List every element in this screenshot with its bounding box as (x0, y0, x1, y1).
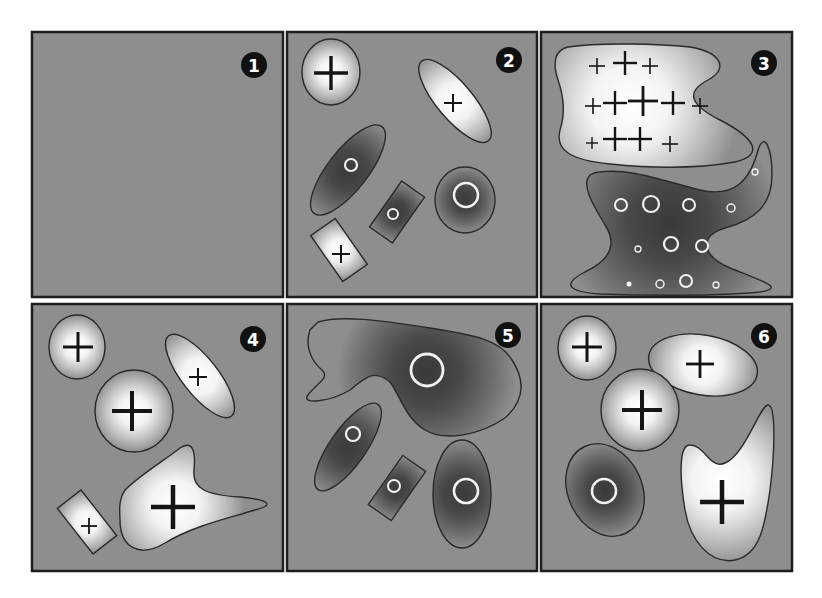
badge-number: 3 (758, 54, 770, 74)
panels-layer (32, 32, 792, 571)
panel-6-number-badge: 6 (751, 323, 777, 349)
badge-number: 4 (247, 330, 259, 350)
badge-number: 1 (248, 56, 260, 76)
panel-4-number-badge: 4 (240, 326, 266, 352)
badge-number: 5 (502, 326, 514, 346)
badge-number: 2 (503, 51, 515, 71)
positive-region-ellipse (49, 315, 105, 379)
badge-number: 6 (758, 327, 770, 347)
panel-2-number-badge: 2 (496, 47, 522, 73)
positive-region-ellipse (302, 39, 360, 105)
panel-2 (287, 32, 537, 297)
negative-region-ellipse (433, 440, 491, 548)
dot-sign-icon (627, 282, 632, 287)
panel-3 (541, 32, 792, 297)
six-panel-figure: 123456 (0, 0, 822, 598)
ellipse-shape (433, 440, 491, 548)
panel-1-number-badge: 1 (241, 52, 267, 78)
panel-3-number-badge: 3 (751, 50, 777, 76)
negative-region-ellipse (435, 167, 495, 233)
ellipse-shape (435, 167, 495, 233)
positive-region-ellipse (558, 316, 616, 380)
positive-region-ellipse (95, 370, 173, 452)
panel-5-number-badge: 5 (495, 322, 521, 348)
positive-region-ellipse (601, 369, 679, 451)
